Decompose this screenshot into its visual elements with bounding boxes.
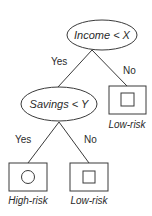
edge-root-no	[92, 50, 127, 86]
root-condition: Income < X	[74, 29, 131, 41]
leaf-root-no: Low-risk	[108, 86, 146, 130]
root-node: Income < X	[67, 20, 137, 50]
circle-icon	[22, 171, 35, 184]
savings-node: Savings < Y	[21, 87, 97, 121]
leaf-savings-no: Low-risk	[70, 163, 109, 206]
leaf-label: Low-risk	[70, 195, 108, 206]
edge-label-root-yes: Yes	[51, 56, 67, 67]
square-icon	[121, 93, 134, 106]
leaf-label: High-risk	[8, 195, 48, 206]
edge-label-savings-no: No	[84, 134, 97, 145]
leaf-savings-yes: High-risk	[8, 163, 48, 206]
edge-label-savings-yes: Yes	[15, 134, 31, 145]
square-icon	[83, 171, 95, 183]
edge-label-root-no: No	[123, 65, 136, 76]
edge-savings-yes	[28, 122, 59, 163]
leaf-label: Low-risk	[108, 119, 146, 130]
decision-tree-diagram: Income < X Yes No Savings < Y Yes No Low…	[0, 0, 152, 216]
savings-condition: Savings < Y	[30, 98, 89, 110]
